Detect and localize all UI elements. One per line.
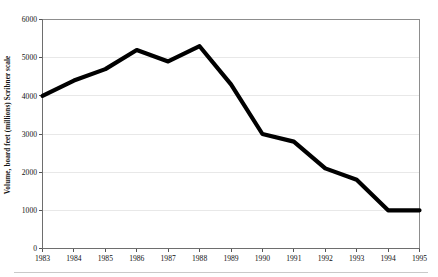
x-tick-label-1993: 1993 xyxy=(349,254,364,263)
y-tick-label-2000: 2000 xyxy=(22,168,37,177)
y-tick-label-0: 0 xyxy=(33,244,37,253)
x-tick-label-1983: 1983 xyxy=(35,254,50,263)
x-tick-label-1985: 1985 xyxy=(98,254,113,263)
data-line-timber-harvest-volume xyxy=(43,46,420,210)
y-tick-label-3000: 3000 xyxy=(22,130,37,139)
y-axis-ticks: 0100020003000400050006000 xyxy=(22,15,43,253)
y-tick-label-5000: 5000 xyxy=(22,53,37,62)
x-axis-ticks: 1983198419851986198719881989199019911992… xyxy=(35,249,427,264)
y-tick-label-6000: 6000 xyxy=(22,15,37,24)
x-tick-label-1991: 1991 xyxy=(286,254,301,263)
x-tick-label-1988: 1988 xyxy=(192,254,207,263)
page-scan-rule xyxy=(14,272,428,273)
x-tick-label-1989: 1989 xyxy=(223,254,238,263)
x-tick-label-1992: 1992 xyxy=(318,254,333,263)
x-tick-label-1994: 1994 xyxy=(380,254,395,263)
y-tick-label-4000: 4000 xyxy=(22,92,37,101)
line-chart-plot: 0100020003000400050006000 19831984198519… xyxy=(0,0,438,277)
data-series-group xyxy=(43,46,420,210)
x-tick-label-1995: 1995 xyxy=(412,254,427,263)
x-tick-label-1990: 1990 xyxy=(255,254,270,263)
x-tick-label-1984: 1984 xyxy=(66,254,81,263)
x-tick-label-1987: 1987 xyxy=(161,254,176,263)
y-tick-label-1000: 1000 xyxy=(22,206,37,215)
x-tick-label-1986: 1986 xyxy=(129,254,144,263)
chart-container: Volume, board feet (millions) Scribner s… xyxy=(0,0,438,277)
